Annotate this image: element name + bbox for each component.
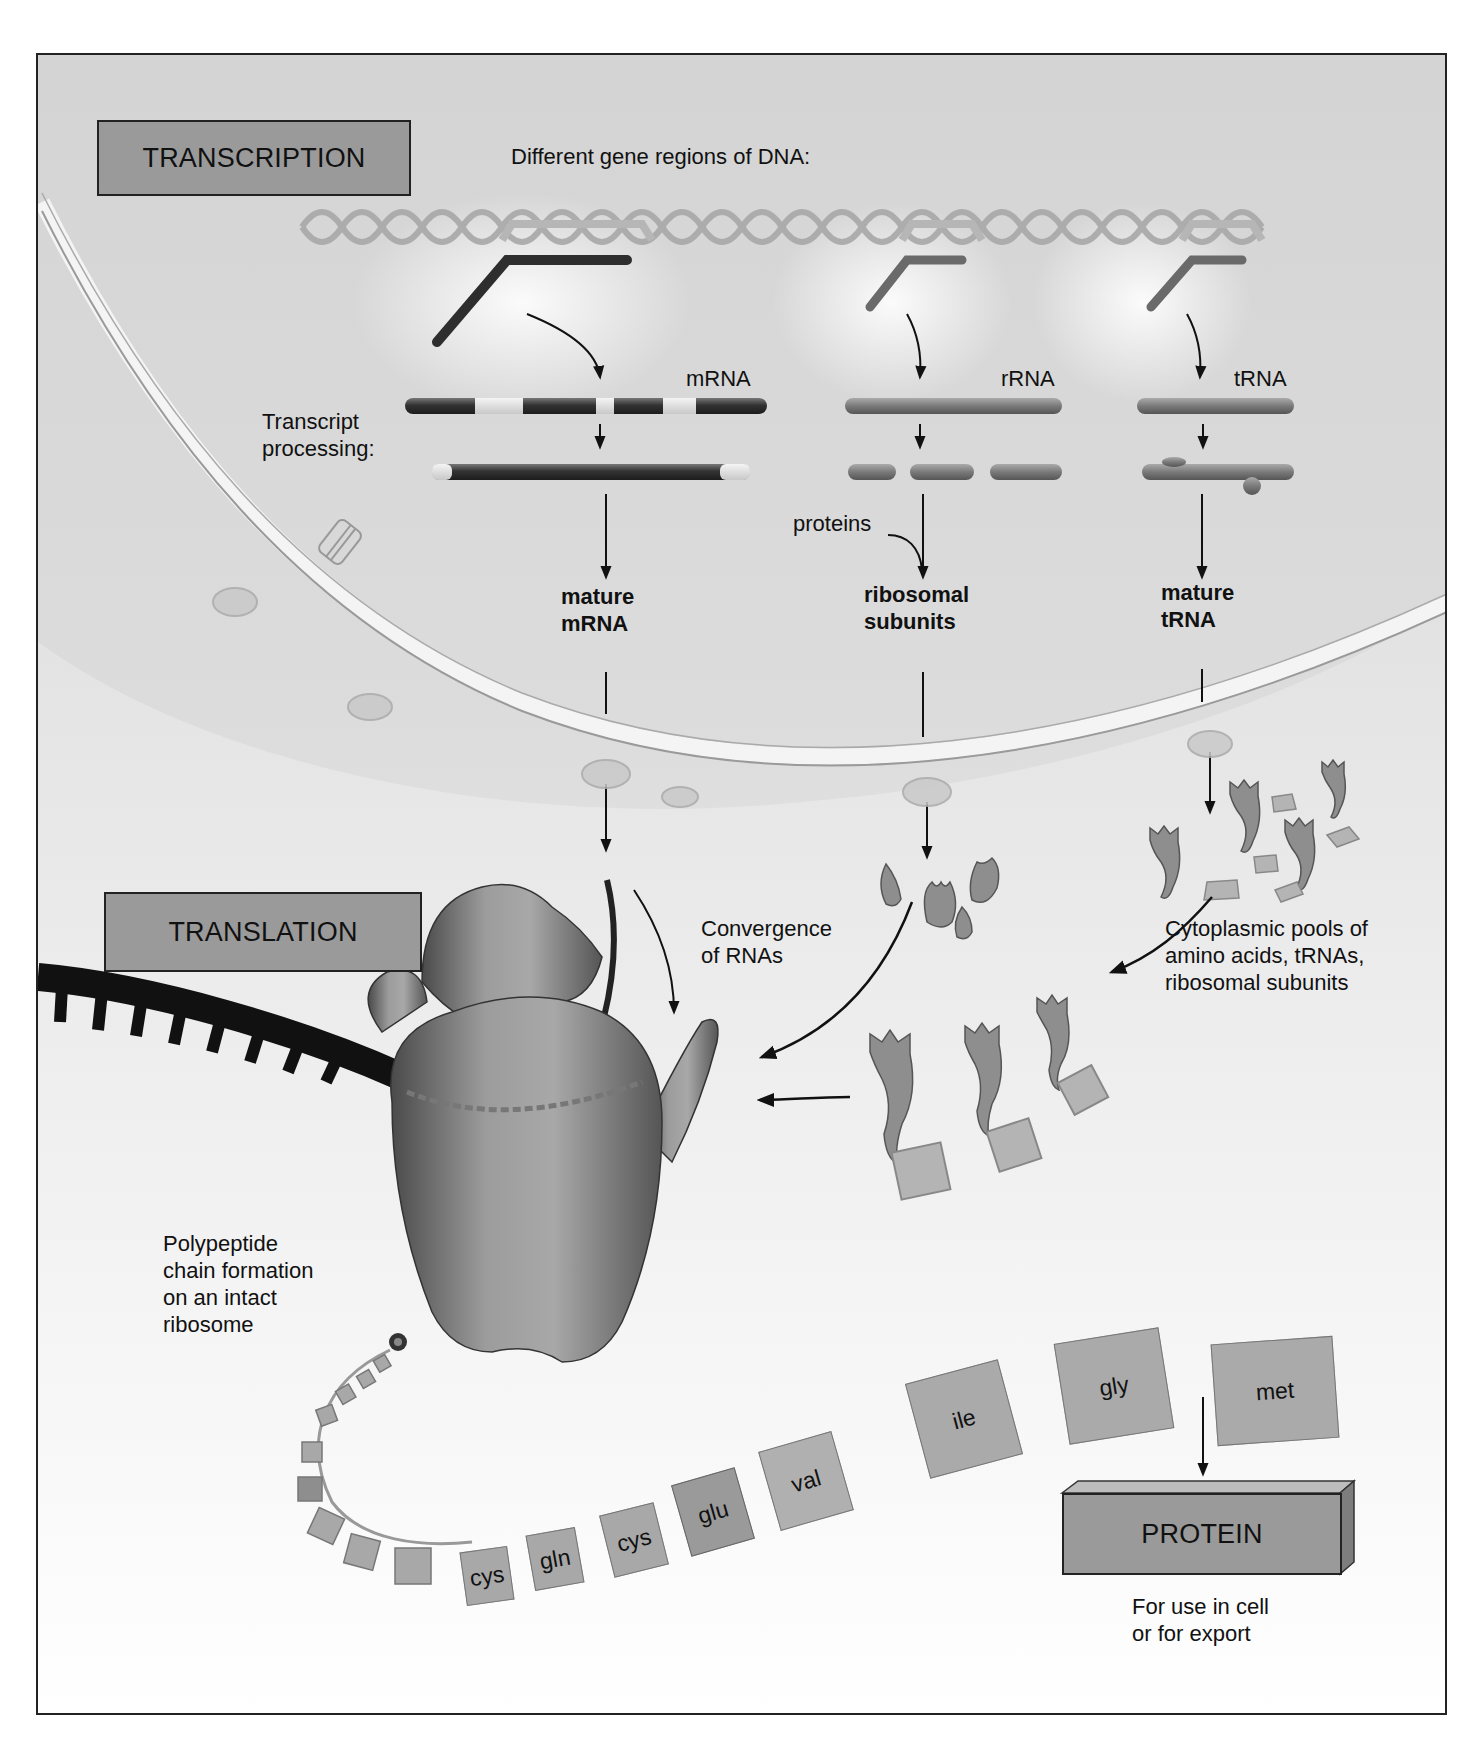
pore-complex-icon — [1188, 731, 1232, 757]
translation-title: TRANSLATION — [168, 917, 357, 948]
ribosomal-subunits-label: ribosomal subunits — [864, 581, 969, 635]
mrna-processed — [432, 464, 750, 480]
mrna-label: mRNA — [686, 365, 751, 392]
trna-primary-transcript — [1137, 398, 1294, 414]
protein-label-box: PROTEIN — [1062, 1493, 1342, 1575]
rrna-label: rRNA — [1001, 365, 1055, 392]
translation-label-box: TRANSLATION — [104, 892, 422, 972]
amino-acid-block: gln — [526, 1527, 585, 1591]
mature-mrna-label: mature mRNA — [561, 583, 634, 637]
mature-trna-label: mature tRNA — [1161, 579, 1234, 633]
nuclear-pore-icon — [317, 518, 364, 567]
transcription-title: TRANSCRIPTION — [142, 143, 365, 174]
diagram-artwork — [38, 55, 1447, 1715]
pore-complex-icon — [213, 588, 257, 616]
amino-acid-block: cys — [459, 1546, 514, 1606]
trna-processed — [1142, 457, 1294, 495]
pore-complex-icon — [662, 787, 698, 807]
convergence-label: Convergence of RNAs — [701, 915, 832, 969]
rrna-processed — [848, 464, 1062, 480]
amino-acid-block: met — [1211, 1336, 1340, 1446]
rrna-primary-transcript — [845, 398, 1062, 414]
pore-complex-icon — [582, 760, 630, 788]
mrna-primary-transcript — [405, 398, 767, 414]
pore-complex-icon — [903, 778, 951, 806]
trna-label: tRNA — [1234, 365, 1287, 392]
cytoplasmic-pools-label: Cytoplasmic pools of amino acids, tRNAs,… — [1165, 915, 1368, 996]
amino-acid-block: gly — [1054, 1327, 1175, 1444]
transcription-label-box: TRANSCRIPTION — [97, 120, 411, 196]
dna-caption: Different gene regions of DNA: — [511, 143, 810, 170]
proteins-label: proteins — [793, 510, 871, 537]
diagram-frame: cys gln cys glu val ile gly met TRANSCRI… — [36, 53, 1447, 1715]
protein-title: PROTEIN — [1141, 1519, 1262, 1550]
transcript-processing-label: Transcript processing: — [262, 408, 375, 462]
protein-usage-note: For use in cell or for export — [1132, 1593, 1269, 1647]
pore-complex-icon — [348, 694, 392, 720]
polypeptide-formation-label: Polypeptide chain formation on an intact… — [163, 1230, 313, 1338]
